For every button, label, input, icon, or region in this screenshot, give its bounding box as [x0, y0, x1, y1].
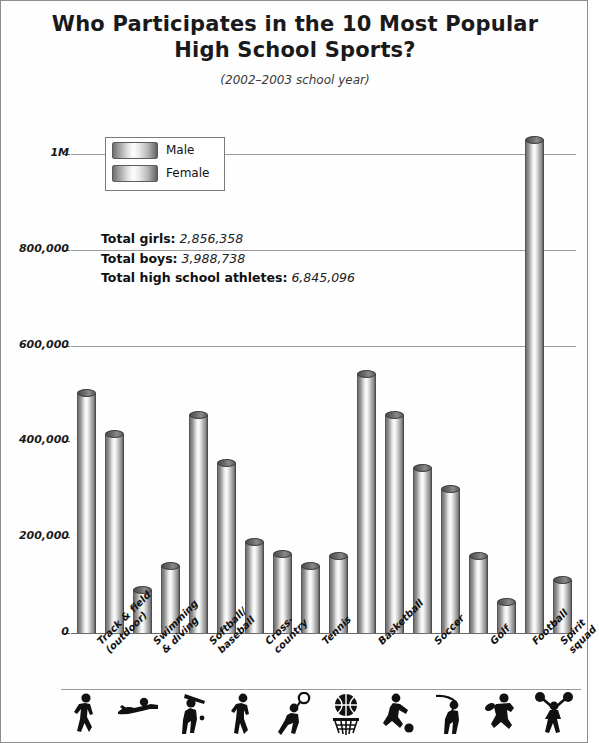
cross-country-runner-icon	[219, 692, 265, 738]
totals-annotation: Total girls: 2,856,358 Total boys: 3,988…	[101, 229, 355, 288]
bar-5-male	[357, 374, 376, 633]
football-player-icon	[479, 692, 525, 738]
legend: Male Female	[105, 137, 225, 191]
bar-top-ellipse	[245, 538, 264, 546]
bar-top-ellipse	[189, 411, 208, 419]
total-girls-value: 2,856,358	[180, 231, 244, 246]
bar-top-ellipse	[77, 389, 96, 397]
legend-swatch-female	[112, 165, 158, 182]
bar-2-female	[217, 463, 236, 633]
bar-5-female	[385, 415, 404, 633]
total-athletes-row: Total high school athletes: 6,845,096	[101, 268, 355, 288]
bar-6-female	[441, 489, 460, 633]
bar-top-ellipse	[357, 370, 376, 378]
soccer-player-icon	[375, 692, 421, 738]
y-axis-tick-label: 800,000	[19, 242, 69, 255]
y-axis-tick-label: 600,000	[19, 338, 69, 351]
bar-top-ellipse	[413, 464, 432, 472]
y-axis-tick-label: 0	[61, 625, 69, 638]
pictogram-row	[61, 689, 581, 740]
legend-label-female: Female	[166, 166, 209, 180]
bar-top-ellipse	[497, 598, 516, 606]
chart-title-line-2: High School Sports?	[1, 37, 589, 63]
y-axis-tick-label: 1M	[50, 146, 69, 159]
bar-top-ellipse	[441, 485, 460, 493]
chart-subtitle: (2002–2003 school year)	[1, 73, 589, 87]
total-athletes-value: 6,845,096	[291, 270, 355, 285]
bar-top-ellipse	[329, 552, 348, 560]
bar-top-ellipse	[385, 411, 404, 419]
bar-top-ellipse	[273, 550, 292, 558]
y-axis-tick-label: 200,000	[19, 529, 69, 542]
gridline	[71, 346, 576, 347]
legend-swatch-male	[112, 142, 158, 159]
bar-8-male	[525, 140, 544, 633]
basketball-hoop-icon	[323, 692, 369, 738]
bar-0-female	[105, 434, 124, 633]
bar-top-ellipse	[105, 430, 124, 438]
bar-7-male	[469, 556, 488, 633]
bar-top-ellipse	[553, 576, 572, 584]
total-athletes-label: Total high school athletes:	[101, 270, 287, 285]
bar-top-ellipse	[469, 552, 488, 560]
golfer-icon	[427, 692, 473, 738]
total-boys-value: 3,988,738	[182, 251, 246, 266]
cheerleader-icon	[531, 692, 577, 738]
tennis-player-icon	[271, 692, 317, 738]
total-boys-label: Total boys:	[101, 251, 178, 266]
bar-0-male	[77, 393, 96, 633]
bar-top-ellipse	[161, 562, 180, 570]
bar-top-ellipse	[525, 136, 544, 144]
chart-title: Who Participates in the 10 Most Popular …	[1, 11, 589, 63]
chart-title-line-1: Who Participates in the 10 Most Popular	[1, 11, 589, 37]
bar-top-ellipse	[217, 459, 236, 467]
runner-icon	[63, 692, 109, 738]
total-girls-row: Total girls: 2,856,358	[101, 229, 355, 249]
total-girls-label: Total girls:	[101, 231, 176, 246]
bar-top-ellipse	[301, 562, 320, 570]
y-axis-tick-label: 400,000	[19, 433, 69, 446]
total-boys-row: Total boys: 3,988,738	[101, 249, 355, 269]
legend-label-male: Male	[166, 143, 194, 157]
batter-icon	[167, 692, 213, 738]
swimmer-icon	[115, 692, 161, 738]
